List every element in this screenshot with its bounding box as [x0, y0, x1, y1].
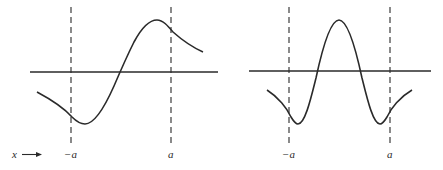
right-a-label: a	[387, 148, 393, 160]
x-axis-label: x	[11, 148, 17, 160]
left-panel: x −a a	[11, 7, 218, 160]
right-panel: −a a	[249, 7, 431, 160]
figure-canvas: x −a a −a a	[0, 0, 443, 170]
left-neg-a-label: −a	[64, 148, 77, 160]
x-direction-arrow-icon	[22, 152, 42, 157]
right-neg-a-label: −a	[282, 148, 295, 160]
left-a-label: a	[168, 148, 174, 160]
